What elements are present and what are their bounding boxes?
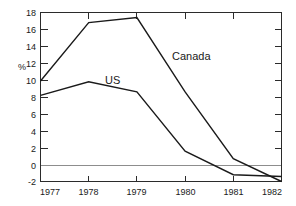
y-tick-label-10: 10 — [26, 76, 36, 86]
top-axis-ticks — [89, 13, 234, 19]
x-tick-label-1978: 1978 — [78, 187, 98, 197]
x-tick-label-1979: 1979 — [126, 187, 146, 197]
line-chart: 18 16 14 12 10 8 6 4 2 0 -2 % 1977 1978 … — [0, 0, 296, 206]
y-tick-label-6: 6 — [31, 110, 36, 120]
y-tick-label-0: 0 — [31, 161, 36, 171]
y-tick-label-8: 8 — [31, 93, 36, 103]
x-tick-label-1981: 1981 — [223, 187, 243, 197]
x-axis-ticks — [89, 176, 234, 182]
y-tick-label-4: 4 — [31, 127, 36, 137]
y-tick-label-12: 12 — [26, 59, 36, 69]
y-tick-label-18: 18 — [26, 8, 36, 18]
series-line-us — [41, 82, 282, 177]
y-tick-label-2: 2 — [31, 144, 36, 154]
x-tick-label-1977: 1977 — [40, 187, 60, 197]
y-axis-ticks — [41, 13, 48, 182]
y-tick-label-minus2: -2 — [28, 177, 36, 187]
y-tick-label-16: 16 — [26, 25, 36, 35]
series-label-canada: Canada — [172, 50, 211, 62]
series-label-us: US — [105, 74, 120, 86]
right-axis-ticks — [275, 30, 282, 166]
series-line-canada — [41, 18, 282, 182]
chart-svg: 18 16 14 12 10 8 6 4 2 0 -2 % 1977 1978 … — [0, 0, 296, 206]
x-tick-label-1982: 1982 — [262, 187, 282, 197]
y-axis-title: % — [18, 62, 26, 72]
y-tick-label-14: 14 — [26, 42, 36, 52]
x-tick-label-1980: 1980 — [175, 187, 195, 197]
